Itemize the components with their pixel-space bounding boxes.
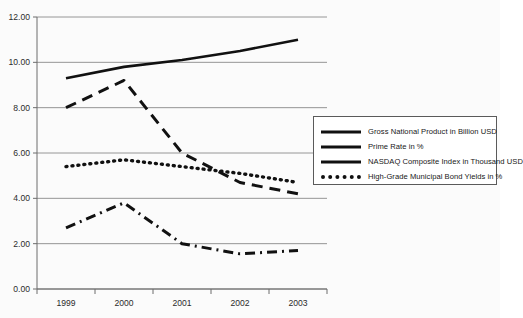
chart-legend: Gross National Product in Billion USDPri… <box>313 116 497 185</box>
legend-item[interactable]: Gross National Product in Billion USD <box>314 124 496 139</box>
svg-text:2001: 2001 <box>172 298 191 308</box>
legend-item-label: NASDAQ Composite Index in Thousand USD <box>368 157 523 167</box>
svg-text:2000: 2000 <box>114 298 133 308</box>
legend-item[interactable]: Prime Rate in % <box>314 139 496 154</box>
svg-text:6.00: 6.00 <box>13 148 30 158</box>
data-series-group <box>66 40 298 254</box>
legend-item[interactable]: High-Grade Municipal Bond Yields in % <box>314 169 496 184</box>
legend-swatch-icon <box>321 127 361 137</box>
legend-item[interactable]: NASDAQ Composite Index in Thousand USD <box>314 154 496 169</box>
series-line <box>66 40 298 79</box>
svg-text:8.00: 8.00 <box>13 103 30 113</box>
x-tick-labels: 19992000200120022003 <box>56 298 307 308</box>
legend-item-label: High-Grade Municipal Bond Yields in % <box>368 172 502 182</box>
y-tick-labels: 0.002.004.006.008.0010.0012.00 <box>8 12 30 294</box>
svg-text:1999: 1999 <box>56 298 75 308</box>
series-line <box>66 203 298 254</box>
svg-text:12.00: 12.00 <box>8 12 30 22</box>
x-axis <box>37 289 327 294</box>
legend-swatch-icon <box>321 142 361 152</box>
legend-swatch-icon <box>321 157 361 167</box>
svg-text:2002: 2002 <box>230 298 249 308</box>
svg-text:4.00: 4.00 <box>13 193 30 203</box>
svg-text:0.00: 0.00 <box>13 284 30 294</box>
svg-text:10.00: 10.00 <box>8 57 30 67</box>
gridlines <box>37 17 327 289</box>
legend-item-label: Prime Rate in % <box>368 142 424 152</box>
svg-text:2003: 2003 <box>288 298 307 308</box>
legend-item-label: Gross National Product in Billion USD <box>368 127 497 137</box>
svg-text:2.00: 2.00 <box>13 239 30 249</box>
legend-swatch-icon <box>321 172 361 182</box>
y-axis <box>33 17 37 289</box>
legend-list: Gross National Product in Billion USDPri… <box>314 117 496 184</box>
series-line <box>66 160 298 183</box>
